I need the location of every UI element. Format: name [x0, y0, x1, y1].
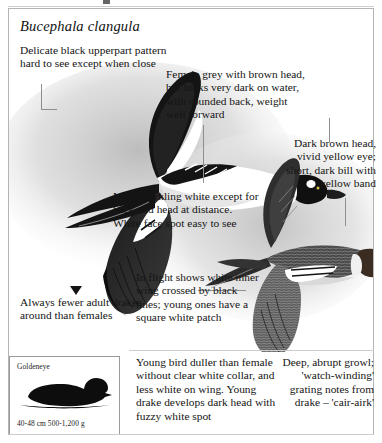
note-female-plumage: Female grey with brown head, but looks v…: [166, 68, 308, 122]
note-male-plumage: Male sparkling white except for back and…: [113, 190, 259, 230]
field-guide-page: Bucephala clangula: [0, 0, 382, 443]
goldeneye-swimming-silhouette: [16, 375, 115, 413]
inset-measurements: 40-48 cm 500-1,200 g: [17, 419, 85, 428]
inset-species-label: Goldeneye: [17, 362, 50, 371]
bottom-divider-rule: [129, 350, 374, 351]
page-bottom-rule: [9, 434, 374, 435]
leader-line-male-plumage: [203, 125, 204, 183]
leader-line-upperpart-elbow: [41, 109, 57, 110]
scientific-name: Bucephala clangula: [20, 18, 140, 35]
note-upperpart-pattern: Delicate black upperpart pattern hard to…: [20, 44, 170, 71]
note-voice: Deep, abrupt growl; 'watch-winding' grat…: [282, 356, 374, 410]
note-in-flight: In flight shows white inner wing crossed…: [136, 271, 264, 325]
top-rule: [8, 6, 374, 7]
pointer-arrow-drakes-ratio: [70, 286, 82, 295]
note-young-bird: Young bird duller than female without cl…: [136, 356, 276, 423]
note-drakes-ratio: Always fewer adult drakes around than fe…: [20, 296, 150, 323]
scan-artifact-mark: [103, 0, 110, 4]
note-head-and-bill: Dark brown head, vivid yellow eye; short…: [282, 137, 376, 191]
species-inset-box: Goldeneye 40-48 cm 500-1,200 g: [9, 356, 120, 435]
leader-line-head-and-bill: [345, 198, 346, 226]
leader-line-upperpart: [41, 84, 42, 110]
